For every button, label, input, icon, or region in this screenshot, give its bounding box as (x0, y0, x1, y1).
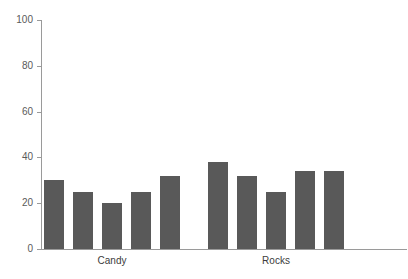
y-axis-tick-label: 100 (16, 13, 33, 26)
x-axis-line (41, 249, 407, 250)
y-axis-tick-label: 40 (22, 150, 33, 163)
y-axis-tick-label: 60 (22, 105, 33, 118)
bar (266, 192, 286, 249)
bar (73, 192, 93, 249)
bar (102, 203, 122, 249)
bar (324, 171, 344, 249)
bar-chart: 020406080100 CandyRocks (0, 0, 408, 279)
y-axis-tick-label: 0 (27, 242, 33, 255)
y-axis-tick-label: 20 (22, 196, 33, 209)
bar (208, 162, 228, 249)
bar (160, 176, 180, 249)
bar (237, 176, 257, 249)
bar (295, 171, 315, 249)
bar (131, 192, 151, 249)
x-axis-group-label: Rocks (262, 254, 290, 268)
y-axis-tick-label: 80 (22, 59, 33, 72)
y-axis-tick-mark (37, 249, 41, 250)
x-axis-group-label: Candy (98, 254, 127, 268)
bar (44, 180, 64, 249)
bars-container (41, 20, 407, 249)
